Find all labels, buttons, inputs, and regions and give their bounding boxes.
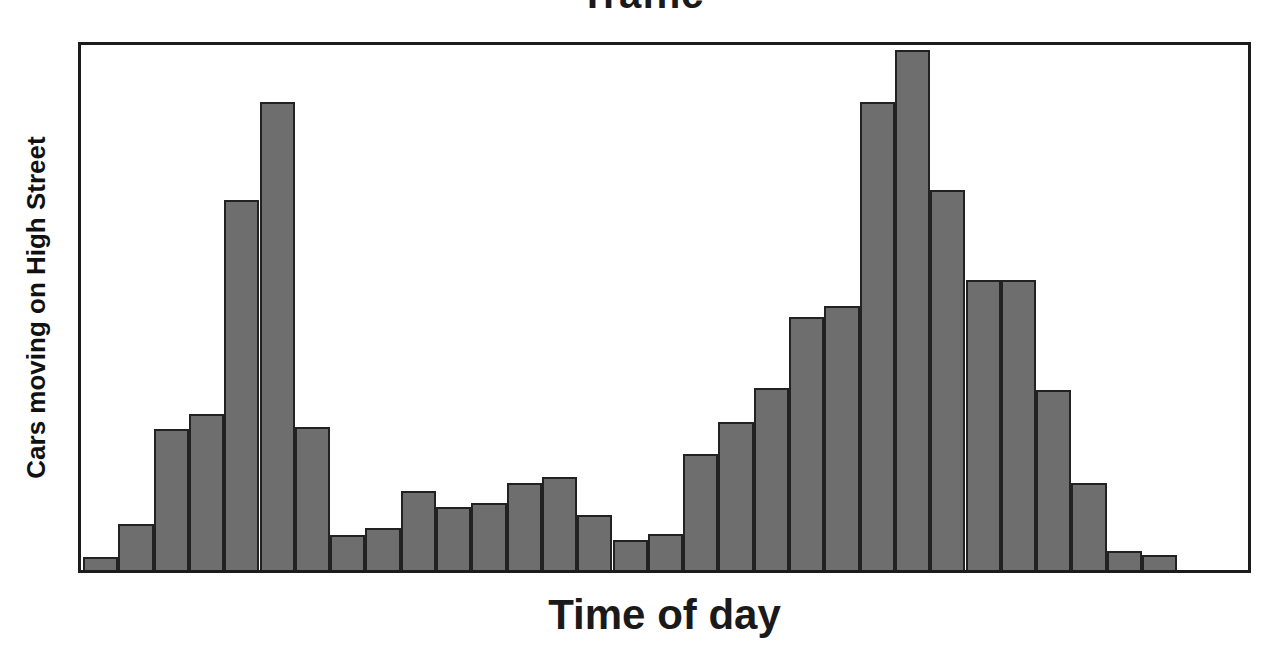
x-axis-label: Time of day bbox=[78, 590, 1251, 640]
histogram-bar bbox=[789, 317, 824, 570]
histogram-bar bbox=[718, 422, 753, 570]
histogram-bar bbox=[260, 102, 295, 570]
histogram-bar bbox=[577, 515, 612, 570]
histogram-bar bbox=[154, 429, 189, 571]
histogram-bar bbox=[189, 414, 224, 570]
y-axis-label: Cars moving on High Street bbox=[18, 42, 54, 573]
histogram-bar bbox=[648, 534, 683, 570]
histogram-bar bbox=[542, 477, 577, 570]
histogram-bar bbox=[83, 557, 118, 570]
histogram-bar bbox=[754, 388, 789, 570]
histogram-bar bbox=[507, 483, 542, 570]
histogram-bar bbox=[1071, 483, 1106, 570]
chart-page: Traffic Cars moving on High Street Time … bbox=[0, 0, 1284, 665]
histogram-bar bbox=[930, 190, 965, 570]
histogram-bar bbox=[365, 528, 400, 570]
histogram-bar bbox=[966, 280, 1001, 570]
bars-container bbox=[81, 42, 1254, 570]
histogram-bar bbox=[1036, 390, 1071, 570]
histogram-bar bbox=[613, 540, 648, 570]
histogram-bar bbox=[824, 306, 859, 570]
plot-area bbox=[78, 42, 1251, 573]
histogram-bar bbox=[330, 535, 365, 570]
histogram-bar bbox=[471, 503, 506, 570]
histogram-bar bbox=[436, 507, 471, 570]
chart-title: Traffic bbox=[0, 0, 1284, 14]
histogram-bar bbox=[295, 427, 330, 570]
histogram-bar bbox=[224, 200, 259, 570]
histogram-bar bbox=[895, 50, 930, 570]
histogram-bar bbox=[1142, 555, 1177, 570]
histogram-bar bbox=[118, 524, 153, 570]
histogram-bar bbox=[683, 454, 718, 570]
histogram-bar bbox=[860, 102, 895, 570]
histogram-bar bbox=[1107, 551, 1142, 570]
histogram-bar bbox=[401, 491, 436, 570]
histogram-bar bbox=[1001, 280, 1036, 570]
